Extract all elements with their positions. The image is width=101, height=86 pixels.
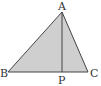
label-c: C [90, 67, 98, 80]
triangle-diagram: A B C P [0, 0, 101, 86]
label-b: B [0, 67, 8, 80]
label-a: A [57, 0, 67, 13]
triangle-abc [8, 12, 88, 72]
label-p: P [58, 74, 66, 86]
